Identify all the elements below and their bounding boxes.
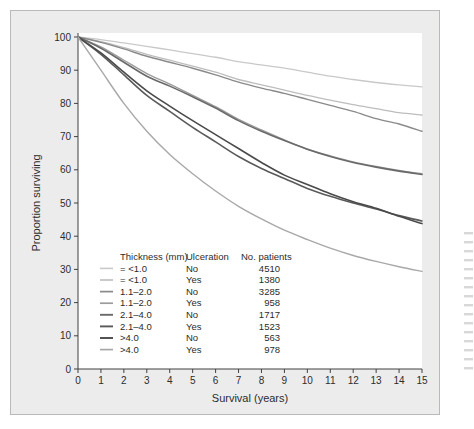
legend-patients-value: 958: [264, 297, 280, 308]
y-tick-label: 10: [60, 330, 72, 341]
legend-thickness-value: = <1.0: [120, 263, 147, 274]
x-tick-label: 4: [167, 375, 173, 386]
edge-text-fragment: [464, 277, 473, 279]
x-tick-label: 13: [371, 375, 383, 386]
legend-header-patients: No. patients: [241, 251, 292, 262]
legend-thickness-value: >4.0: [120, 344, 139, 355]
legend-patients-value: 4510: [259, 263, 280, 274]
x-axis-title: Survival (years): [212, 392, 288, 404]
edge-text-fragment: [464, 331, 473, 333]
edge-text-fragment: [464, 322, 473, 324]
x-tick-label: 8: [259, 375, 265, 386]
x-tick-label: 3: [144, 375, 150, 386]
x-tick-label: 11: [325, 375, 336, 386]
x-tick-label: 5: [190, 375, 196, 386]
legend-ulceration-value: Yes: [186, 321, 202, 332]
edge-text-fragment: [464, 358, 473, 360]
y-tick-label: 20: [60, 297, 72, 308]
y-tick-label: 40: [60, 231, 72, 242]
x-tick-label: 2: [121, 375, 127, 386]
edge-text-fragment: [464, 313, 473, 315]
legend-header-ulceration: Ulceration: [186, 251, 229, 262]
legend-ulceration-value: Yes: [186, 297, 202, 308]
edge-text-fragment: [464, 241, 473, 243]
x-tick-label: 6: [213, 375, 219, 386]
legend-patients-value: 1717: [259, 309, 280, 320]
x-tick-label: 0: [75, 375, 81, 386]
legend-ulceration-value: No: [186, 286, 198, 297]
edge-text-fragment: [464, 286, 473, 288]
legend-thickness-value: = <1.0: [120, 274, 147, 285]
figure-page: 0102030405060708090100012345678910111213…: [0, 0, 474, 429]
x-tick-label: 9: [282, 375, 288, 386]
legend-thickness-value: 1.1–2.0: [120, 297, 152, 308]
edge-text-fragment: [464, 268, 473, 270]
edge-text-fragment: [464, 259, 473, 261]
legend-ulceration-value: No: [186, 263, 198, 274]
legend-ulceration-value: No: [186, 332, 198, 343]
legend-patients-value: 563: [264, 332, 280, 343]
y-tick-label: 90: [60, 65, 72, 76]
y-tick-label: 0: [65, 364, 71, 375]
legend-thickness-value: >4.0: [120, 332, 139, 343]
edge-text-fragment: [464, 295, 473, 297]
edge-text-fragment: [464, 340, 473, 342]
edge-text-fragment: [464, 304, 473, 306]
edge-text-fragment: [464, 250, 473, 252]
legend-patients-value: 3285: [259, 286, 280, 297]
x-tick-label: 14: [394, 375, 406, 386]
x-tick-label: 10: [302, 375, 314, 386]
y-tick-label: 60: [60, 164, 72, 175]
survival-chart: 0102030405060708090100012345678910111213…: [0, 0, 474, 429]
x-tick-label: 7: [236, 375, 242, 386]
edge-text-fragment: [464, 349, 473, 351]
legend-header-thickness: Thickness (mm): [120, 251, 188, 262]
legend-ulceration-value: Yes: [186, 274, 202, 285]
x-tick-label: 1: [98, 375, 104, 386]
legend-patients-value: 1380: [259, 274, 280, 285]
legend-thickness-value: 1.1–2.0: [120, 286, 152, 297]
x-tick-label: 15: [416, 375, 428, 386]
y-tick-label: 80: [60, 98, 72, 109]
y-tick-label: 100: [54, 32, 71, 43]
x-tick-label: 12: [348, 375, 360, 386]
y-tick-label: 70: [60, 131, 72, 142]
y-tick-label: 30: [60, 264, 72, 275]
legend-ulceration-value: No: [186, 309, 198, 320]
edge-text-fragment: [464, 232, 473, 234]
cut-off-edge-text: [464, 232, 473, 369]
edge-text-fragment: [464, 367, 473, 369]
legend-ulceration-value: Yes: [186, 344, 202, 355]
legend-patients-value: 978: [264, 344, 280, 355]
legend-thickness-value: 2.1–4.0: [120, 309, 152, 320]
y-axis-title: Proportion surviving: [30, 154, 42, 251]
legend-thickness-value: 2.1–4.0: [120, 321, 152, 332]
legend-patients-value: 1523: [259, 321, 280, 332]
y-tick-label: 50: [60, 198, 72, 209]
